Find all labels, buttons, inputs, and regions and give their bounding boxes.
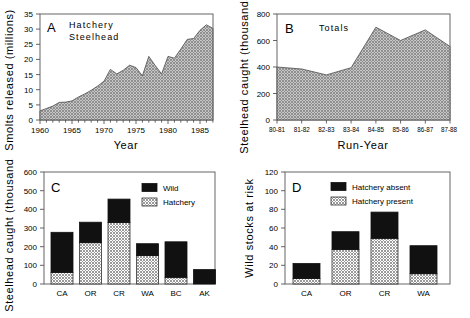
panel-d-bar-or: [332, 232, 359, 284]
panel-c-bar-wa: [137, 244, 159, 284]
panel-c-xtick-ak: AK: [199, 289, 210, 298]
panel-c-bar-or: [80, 222, 102, 284]
panel-d-ytick-100: 100: [265, 187, 279, 196]
panel-c-xtick-bc: BC: [170, 289, 181, 298]
panel-b-xtick-1: 81-82: [294, 126, 311, 133]
panel-b-ytick-400: 400: [257, 63, 271, 72]
panel-c-ytick-500: 500: [24, 187, 38, 196]
panel-c-legend-label-hatchery: Hatchery: [163, 198, 195, 207]
panel-c-y-axis: 0 100 200 300 400 500 600: [24, 168, 44, 289]
figure-multipanel: Smolts released (millions): [0, 0, 470, 318]
panel-c-xtick-ca: CA: [56, 289, 68, 298]
panel-b-xtick-6: 86-87: [417, 126, 434, 133]
panel-c-bar-cr: [108, 199, 130, 284]
panel-a-x-axis: [40, 120, 213, 124]
panel-d-ytick-120: 120: [265, 168, 279, 177]
panel-d-bar-cr: [371, 212, 398, 284]
panel-d-bar-wa: [410, 246, 437, 284]
panel-a-letter: A: [47, 20, 56, 35]
panel-c-xtick-or: OR: [85, 289, 97, 298]
panel-b-xtick-4: 84-85: [368, 126, 385, 133]
panel-a-annotation-line2: Steelhead: [69, 32, 119, 42]
panel-b-annotation: Totals: [319, 23, 349, 33]
panel-c-legend-swatch-hatchery: [142, 198, 157, 206]
panel-a-ytick-30: 30: [24, 25, 33, 34]
panel-c-bar-ca: [51, 232, 73, 284]
panel-d-xtick-or: OR: [340, 289, 352, 298]
panel-d-bar-ca: [293, 264, 320, 285]
panel-b-ylabel: Steelhead caught (thousands): [238, 0, 250, 154]
panel-a-xtick-1975: 1975: [127, 126, 145, 135]
panel-c-ytick-600: 600: [24, 168, 38, 177]
panel-d-legend-swatch-present: [331, 197, 346, 205]
panel-b-ytick-0: 0: [266, 116, 271, 125]
panel-a-xlabel: Year: [114, 139, 139, 151]
panel-a-ylabel: Smolts released (millions): [3, 9, 15, 151]
panel-b-xtick-5: 85-86: [393, 126, 410, 133]
panel-d-y-axis: 0 20 40 60 80 100 120: [265, 168, 285, 289]
panel-b-ytick-200: 200: [257, 90, 271, 99]
panel-d-legend-label-present: Hatchery present: [352, 197, 414, 206]
panel-c-xtick-wa: WA: [141, 289, 154, 298]
panel-c-letter: C: [51, 180, 60, 195]
panel-a-xtick-1970: 1970: [95, 126, 113, 135]
panel-b-xtick-3: 83-84: [343, 126, 360, 133]
panel-a-xtick-1960: 1960: [31, 126, 49, 135]
panel-d-xtick-wa: WA: [417, 289, 430, 298]
panel-a-y-axis: 0 5 10 15 20 25 30 35: [24, 10, 40, 125]
panel-d-ytick-0: 0: [274, 280, 279, 289]
panel-b-ytick-600: 600: [257, 37, 271, 46]
panel-d-ytick-40: 40: [269, 243, 278, 252]
panel-b-svg: Steelhead caught (thousands) 0 200 400 6…: [235, 0, 470, 160]
panel-c-legend-swatch-wild: [142, 184, 157, 192]
panel-b-ytick-800: 800: [257, 10, 271, 19]
panel-d-xtick-ca: CA: [301, 289, 313, 298]
panel-a-xtick-1965: 1965: [63, 126, 81, 135]
panel-a-annotation-line1: Hatchery: [69, 20, 114, 30]
panel-c-ytick-400: 400: [24, 205, 38, 214]
panel-a-svg: Smolts released (millions): [0, 0, 235, 160]
panel-d: Wild stocks at risk: [235, 158, 470, 318]
panel-c-ytick-300: 300: [24, 224, 38, 233]
panel-d-ytick-80: 80: [269, 205, 278, 214]
panel-d-xtick-cr: CR: [379, 289, 391, 298]
panel-c-xtick-cr: CR: [113, 289, 125, 298]
panel-c-ytick-200: 200: [24, 243, 38, 252]
panel-a-ytick-15: 15: [24, 71, 33, 80]
panel-c-ytick-0: 0: [33, 280, 38, 289]
panel-b-x-axis: [277, 120, 450, 124]
panel-b: Steelhead caught (thousands) 0 200 400 6…: [235, 0, 470, 160]
panel-d-ylabel: Wild stocks at risk: [243, 178, 255, 277]
panel-a-ytick-5: 5: [29, 101, 34, 110]
panel-a-ytick-10: 10: [24, 86, 33, 95]
panel-a-ytick-0: 0: [29, 116, 34, 125]
panel-a-ytick-25: 25: [24, 40, 33, 49]
panel-a-xtick-1980: 1980: [159, 126, 177, 135]
panel-b-xtick-0: 80-81: [269, 126, 286, 133]
panel-c-svg: Steelhead caught (thousands): [0, 158, 235, 318]
panel-c-bar-bc: [165, 242, 187, 284]
panel-d-ytick-60: 60: [269, 224, 278, 233]
panel-b-xtick-7: 87-88: [441, 126, 458, 133]
panel-d-legend-label-absent: Hatchery absent: [352, 183, 411, 192]
panel-c-bar-ak: [194, 270, 216, 284]
panel-c-legend-label-wild: Wild: [163, 184, 179, 193]
panel-a-ytick-35: 35: [24, 10, 33, 19]
panel-d-svg: Wild stocks at risk: [235, 158, 470, 318]
panel-d-legend-swatch-absent: [331, 183, 346, 191]
panel-b-letter: B: [285, 21, 294, 36]
panel-c-ylabel: Steelhead caught (thousands): [3, 158, 15, 312]
panel-c: Steelhead caught (thousands): [0, 158, 235, 318]
panel-a-ytick-20: 20: [24, 55, 33, 64]
panel-a-xtick-1985: 1985: [191, 126, 209, 135]
panel-b-xtick-2: 82-83: [318, 126, 335, 133]
panel-b-xlabel: Run-Year: [338, 139, 389, 151]
panel-d-letter: D: [292, 180, 301, 195]
panel-d-ytick-20: 20: [269, 261, 278, 270]
panel-a: Smolts released (millions): [0, 0, 235, 160]
panel-b-y-axis: 0 200 400 600 800: [257, 10, 277, 125]
panel-c-ytick-100: 100: [24, 261, 38, 270]
